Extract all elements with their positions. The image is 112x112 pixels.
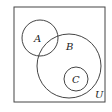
set-c-label: C xyxy=(72,74,80,85)
universe-label: U xyxy=(95,89,104,100)
set-b-label: B xyxy=(65,41,73,52)
venn-diagram: A B C U xyxy=(0,0,112,112)
universe-rectangle xyxy=(14,7,105,102)
set-a-label: A xyxy=(33,33,41,44)
